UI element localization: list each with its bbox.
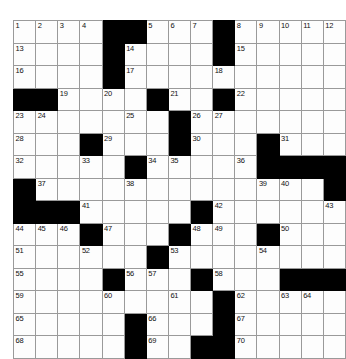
crossword-cell[interactable]	[80, 178, 102, 201]
crossword-cell[interactable]: 36	[235, 156, 257, 179]
crossword-cell[interactable]: 44	[14, 223, 36, 246]
crossword-cell[interactable]: 12	[323, 21, 345, 44]
crossword-cell[interactable]: 56	[124, 268, 146, 291]
crossword-cell[interactable]	[80, 336, 102, 359]
crossword-cell[interactable]: 45	[36, 223, 58, 246]
crossword-cell[interactable]	[323, 223, 345, 246]
crossword-cell[interactable]	[301, 178, 323, 201]
crossword-cell[interactable]	[36, 336, 58, 359]
crossword-cell[interactable]: 57	[146, 268, 168, 291]
crossword-cell[interactable]	[191, 291, 213, 314]
crossword-cell[interactable]: 46	[58, 223, 80, 246]
crossword-cell[interactable]: 52	[80, 246, 102, 269]
crossword-cell[interactable]: 63	[279, 291, 301, 314]
crossword-cell[interactable]	[124, 223, 146, 246]
crossword-cell[interactable]: 53	[168, 246, 190, 269]
crossword-cell[interactable]: 33	[80, 156, 102, 179]
crossword-cell[interactable]	[235, 178, 257, 201]
crossword-cell[interactable]	[301, 246, 323, 269]
crossword-cell[interactable]: 35	[168, 156, 190, 179]
crossword-cell[interactable]	[257, 43, 279, 66]
crossword-cell[interactable]: 5	[146, 21, 168, 44]
crossword-cell[interactable]: 42	[213, 201, 235, 224]
crossword-cell[interactable]: 24	[36, 111, 58, 134]
crossword-cell[interactable]: 37	[36, 178, 58, 201]
crossword-cell[interactable]: 8	[235, 21, 257, 44]
crossword-cell[interactable]: 15	[235, 43, 257, 66]
crossword-cell[interactable]: 4	[80, 21, 102, 44]
crossword-cell[interactable]	[80, 88, 102, 111]
crossword-cell[interactable]: 65	[14, 313, 36, 336]
crossword-cell[interactable]	[213, 133, 235, 156]
crossword-cell[interactable]: 39	[257, 178, 279, 201]
crossword-cell[interactable]	[279, 111, 301, 134]
crossword-cell[interactable]	[235, 223, 257, 246]
crossword-cell[interactable]: 58	[213, 268, 235, 291]
crossword-cell[interactable]	[102, 246, 124, 269]
crossword-cell[interactable]	[58, 268, 80, 291]
crossword-cell[interactable]: 68	[14, 336, 36, 359]
crossword-cell[interactable]	[235, 66, 257, 89]
crossword-cell[interactable]	[235, 246, 257, 269]
crossword-cell[interactable]	[323, 88, 345, 111]
crossword-cell[interactable]	[102, 336, 124, 359]
crossword-cell[interactable]	[102, 156, 124, 179]
crossword-cell[interactable]	[301, 201, 323, 224]
crossword-cell[interactable]	[146, 201, 168, 224]
crossword-cell[interactable]	[58, 246, 80, 269]
crossword-cell[interactable]	[235, 111, 257, 134]
crossword-cell[interactable]	[279, 88, 301, 111]
crossword-cell[interactable]	[301, 111, 323, 134]
crossword-cell[interactable]	[279, 201, 301, 224]
crossword-cell[interactable]	[191, 178, 213, 201]
crossword-cell[interactable]	[102, 178, 124, 201]
crossword-cell[interactable]: 41	[80, 201, 102, 224]
crossword-cell[interactable]	[235, 201, 257, 224]
crossword-cell[interactable]: 28	[14, 133, 36, 156]
crossword-cell[interactable]	[168, 313, 190, 336]
crossword-cell[interactable]	[213, 156, 235, 179]
crossword-cell[interactable]: 7	[191, 21, 213, 44]
crossword-cell[interactable]	[58, 66, 80, 89]
crossword-cell[interactable]	[146, 111, 168, 134]
crossword-cell[interactable]	[279, 66, 301, 89]
crossword-cell[interactable]	[323, 133, 345, 156]
crossword-cell[interactable]	[36, 291, 58, 314]
crossword-cell[interactable]	[146, 43, 168, 66]
crossword-cell[interactable]	[36, 133, 58, 156]
crossword-cell[interactable]	[146, 223, 168, 246]
crossword-cell[interactable]: 1	[14, 21, 36, 44]
crossword-cell[interactable]	[168, 336, 190, 359]
crossword-cell[interactable]	[58, 291, 80, 314]
crossword-cell[interactable]	[191, 43, 213, 66]
crossword-cell[interactable]	[191, 246, 213, 269]
crossword-cell[interactable]	[168, 268, 190, 291]
crossword-cell[interactable]	[168, 43, 190, 66]
crossword-cell[interactable]	[80, 66, 102, 89]
crossword-cell[interactable]	[279, 313, 301, 336]
crossword-cell[interactable]: 62	[235, 291, 257, 314]
crossword-cell[interactable]	[80, 313, 102, 336]
crossword-cell[interactable]	[235, 133, 257, 156]
crossword-cell[interactable]	[323, 313, 345, 336]
crossword-cell[interactable]: 22	[235, 88, 257, 111]
crossword-cell[interactable]	[257, 88, 279, 111]
crossword-cell[interactable]	[36, 156, 58, 179]
crossword-cell[interactable]	[323, 111, 345, 134]
crossword-cell[interactable]: 69	[146, 336, 168, 359]
crossword-cell[interactable]: 61	[168, 291, 190, 314]
crossword-cell[interactable]	[213, 178, 235, 201]
crossword-cell[interactable]	[146, 178, 168, 201]
crossword-cell[interactable]	[191, 313, 213, 336]
crossword-cell[interactable]	[213, 246, 235, 269]
crossword-cell[interactable]	[124, 88, 146, 111]
crossword-cell[interactable]	[301, 133, 323, 156]
crossword-cell[interactable]	[58, 313, 80, 336]
crossword-cell[interactable]: 70	[235, 336, 257, 359]
crossword-cell[interactable]: 67	[235, 313, 257, 336]
crossword-cell[interactable]: 59	[14, 291, 36, 314]
crossword-cell[interactable]	[301, 88, 323, 111]
crossword-cell[interactable]: 47	[102, 223, 124, 246]
crossword-cell[interactable]: 9	[257, 21, 279, 44]
crossword-cell[interactable]	[102, 111, 124, 134]
